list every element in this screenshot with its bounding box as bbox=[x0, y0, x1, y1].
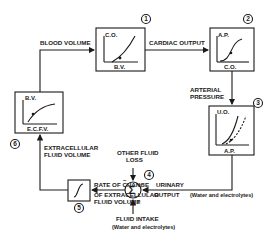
axis-y-label: B.V. bbox=[25, 95, 36, 101]
axis-x-label: C.O. bbox=[224, 64, 237, 70]
block-number: 1 bbox=[144, 15, 148, 22]
arrow-blood-volume bbox=[40, 50, 94, 92]
block-3-uo-vs-ap: U.O. A.P. 3 bbox=[209, 99, 263, 156]
label-other-loss-1: OTHER FLUID bbox=[117, 149, 159, 156]
block-number: 4 bbox=[147, 171, 151, 178]
block-number: 5 bbox=[77, 204, 81, 211]
block-number: 2 bbox=[246, 15, 250, 22]
label-rate-3: FLUID VOLUME bbox=[94, 198, 140, 205]
axis-y-label: A.P. bbox=[218, 32, 229, 38]
axis-y-label: C.O. bbox=[105, 32, 118, 38]
label-arterial-2: PRESSURE bbox=[190, 93, 224, 100]
label-intake-2: (Water and electrolytes) bbox=[112, 224, 175, 230]
block-1-co-vs-bv: C.O. B.V. 1 bbox=[96, 15, 151, 72]
feedback-diagram: C.O. B.V. 1 A.P. C.O. 2 U.O. A.P. 3 B.V bbox=[0, 0, 277, 240]
axis-x-label: B.V. bbox=[114, 64, 125, 70]
label-rate-2: OF EXTRACELLULAR bbox=[94, 191, 159, 198]
label-urinary-2: OUTPUT bbox=[154, 191, 180, 198]
label-cardiac-output: CARDIAC OUTPUT bbox=[149, 39, 205, 46]
axis-y-label: U.O. bbox=[217, 109, 230, 115]
label-urinary-1: URINARY bbox=[156, 181, 185, 188]
block-2-ap-vs-co: A.P. C.O. 2 bbox=[210, 15, 254, 72]
label-ecfv-1: EXTRACELLULAR bbox=[44, 144, 99, 151]
axis-x-label: E.C.F.V. bbox=[27, 126, 49, 132]
block-number: 6 bbox=[13, 140, 17, 147]
label-ecfv-2: FLUID VOLUME bbox=[44, 151, 90, 158]
axis-x-label: A.P. bbox=[224, 148, 235, 154]
label-urinary-3: (Water and electrolytes) bbox=[190, 192, 253, 198]
label-rate-1: RATE OF CHANGE bbox=[94, 181, 149, 188]
label-arterial-1: ARTERIAL bbox=[190, 86, 221, 93]
label-intake-1: FLUID INTAKE bbox=[116, 215, 159, 222]
block-5-integrator: 5 bbox=[68, 180, 90, 213]
label-blood-volume: BLOOD VOLUME bbox=[40, 39, 91, 46]
block-6-bv-vs-ecfv: B.V. E.C.F.V. 6 bbox=[11, 92, 64, 149]
block-number: 3 bbox=[256, 99, 260, 106]
label-other-loss-2: LOSS bbox=[126, 156, 143, 163]
